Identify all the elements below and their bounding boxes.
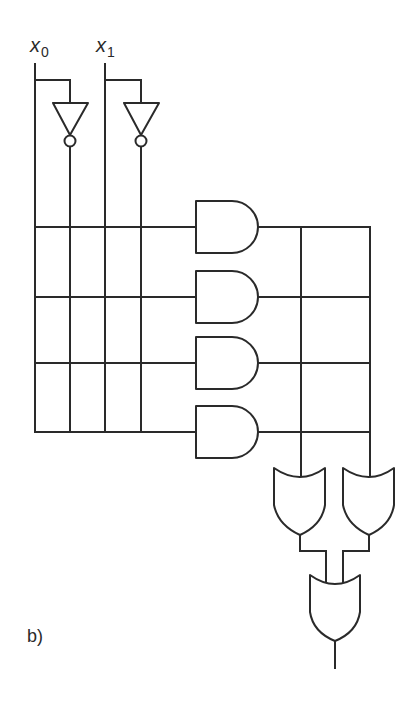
not-gate-icon [53, 103, 88, 135]
and-gates [196, 201, 258, 458]
input-label-x0: x0 [29, 34, 49, 60]
or-1-to-final [300, 535, 326, 583]
figure-caption: b) [27, 626, 43, 646]
inverter-x0 [53, 103, 88, 147]
and-gate-1-icon [196, 201, 258, 253]
or-plane-lines [258, 227, 370, 478]
and-gate-3-icon [196, 337, 258, 389]
svg-text:x0: x0 [29, 34, 49, 60]
or-2-to-final [343, 535, 369, 583]
input-wires [35, 64, 141, 432]
final-or-gate [310, 575, 360, 668]
inversion-bubble-icon [65, 136, 76, 147]
wire-x0-branch [35, 80, 70, 103]
or-gate-2-icon [343, 468, 394, 535]
product-lines [35, 227, 196, 432]
inverter-x1 [124, 103, 159, 147]
and-gate-4-icon [196, 406, 258, 458]
input-label-x1: x1 [95, 34, 115, 60]
or-gates-stage-1 [274, 468, 394, 535]
inversion-bubble-icon [136, 136, 147, 147]
svg-text:x1: x1 [95, 34, 115, 60]
or-gate-1-icon [274, 468, 325, 535]
and-gate-2-icon [196, 271, 258, 323]
wire-x1-branch [105, 80, 141, 103]
pla-circuit-diagram: x0 x1 [0, 0, 408, 713]
or-gate-final-icon [310, 575, 360, 641]
not-gate-icon [124, 103, 159, 135]
